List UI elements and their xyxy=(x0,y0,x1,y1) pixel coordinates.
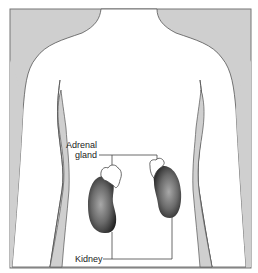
body-fill xyxy=(12,9,246,267)
label-kidney: Kidney xyxy=(75,254,103,264)
label-adrenal-line2: gland xyxy=(75,150,97,160)
label-adrenal-line1: Adrenal xyxy=(66,140,97,150)
anatomy-diagram xyxy=(0,0,258,273)
